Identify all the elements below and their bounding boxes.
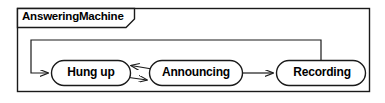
state-label-hung-up: Hung up	[60, 66, 122, 78]
state-label-announcing: Announcing	[155, 66, 237, 78]
diagram-title-label: AnsweringMachine	[22, 11, 124, 23]
state-label-recording: Recording	[283, 66, 361, 78]
state-machine-diagram: AnsweringMachine Hung up Announcing Reco…	[0, 0, 385, 103]
